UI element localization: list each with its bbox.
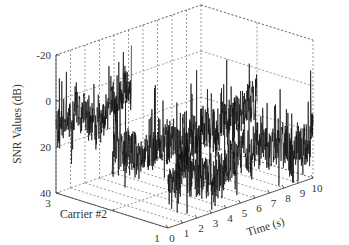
time-tick-label: 9 (300, 187, 306, 199)
time-tick-label: 7 (271, 197, 277, 209)
time-tick-label: 0 (169, 232, 175, 244)
z-tick-label: 20 (40, 141, 52, 153)
time-tick-label: 4 (227, 212, 233, 224)
time-tick-label: 8 (285, 192, 291, 204)
y-axis-label: Carrier #2 (60, 208, 107, 220)
time-tick-label: 2 (198, 222, 204, 234)
time-tick-label: 3 (213, 217, 219, 229)
time-tick-label: 6 (256, 202, 262, 214)
x-axis-label: Time (s) (245, 215, 286, 239)
grid-line-floor (100, 178, 212, 213)
time-tick-label: 5 (242, 207, 248, 219)
snr-3d-chart: -200204031012345678910 SNR Values (dB) C… (0, 0, 349, 245)
time-tick-label: 1 (184, 227, 190, 239)
carrier-tick-label: 1 (154, 232, 160, 244)
carrier-tick-mark (112, 210, 115, 211)
z-tick-label: -20 (36, 49, 51, 61)
carrier-tick-label: 3 (45, 197, 51, 209)
z-tick-label: 0 (46, 95, 52, 107)
snr-traces (56, 45, 313, 213)
time-tick-label: 10 (312, 182, 324, 194)
z-axis-label: SNR Values (dB) (11, 84, 24, 164)
